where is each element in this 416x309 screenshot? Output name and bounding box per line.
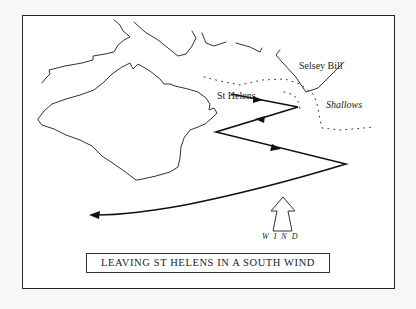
label-st-helens: St Helens bbox=[217, 90, 256, 101]
arrowhead-left-icon bbox=[89, 211, 100, 219]
course-track bbox=[97, 94, 346, 215]
mainland-coast-west bbox=[42, 20, 130, 83]
label-wind: WIND bbox=[262, 232, 302, 241]
mainland-coast-east bbox=[202, 33, 226, 46]
arrow-left-icon bbox=[255, 116, 265, 123]
mainland-coast-mid bbox=[134, 22, 196, 56]
mainland-coast-east2 bbox=[236, 43, 262, 52]
label-selsey-bill: Selsey Bill bbox=[299, 60, 343, 71]
caption-box: LEAVING ST HELENS IN A SOUTH WIND bbox=[86, 253, 330, 273]
selsey-bill-coast bbox=[276, 50, 344, 92]
island-coastline bbox=[38, 63, 217, 180]
label-shallows: Shallows bbox=[326, 99, 362, 110]
wind-arrow-icon bbox=[271, 197, 295, 231]
course-arrowheads bbox=[89, 96, 281, 219]
